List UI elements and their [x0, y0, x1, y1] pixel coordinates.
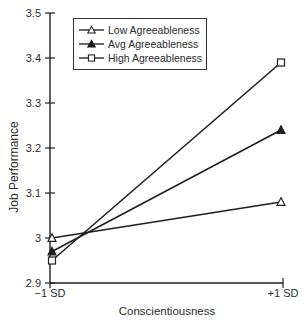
open-triangle-data-marker	[277, 198, 285, 206]
legend-label-low: Low Agreeableness	[108, 25, 200, 36]
legend-item-avg-agreeableness: Avg Agreeableness	[79, 39, 204, 50]
legend-item-high-agreeableness: High Agreeableness	[79, 53, 204, 64]
y-tick-label: 3.2	[26, 142, 41, 154]
x-tick-label: −1 SD	[35, 287, 66, 299]
open-square-marker-icon	[79, 53, 104, 63]
open-square-data-marker	[278, 59, 285, 66]
legend: Low Agreeableness Avg Agreeableness High…	[73, 18, 207, 70]
y-tick-label: 3.5	[26, 7, 41, 19]
legend-label-high: High Agreeableness	[108, 53, 202, 64]
filled-triangle-marker-icon	[79, 39, 104, 49]
y-tick-label: 3.3	[26, 97, 41, 109]
x-axis-title: Conscientiousness	[119, 305, 216, 317]
legend-label-avg: Avg Agreeableness	[108, 39, 198, 50]
y-tick-label: 3.1	[26, 187, 41, 199]
open-square-data-marker	[49, 257, 56, 264]
series-line-avg-agreeableness	[52, 130, 281, 252]
legend-item-low-agreeableness: Low Agreeableness	[79, 25, 204, 36]
x-tick-label: +1 SD	[268, 287, 299, 299]
open-triangle-marker-icon	[79, 25, 104, 35]
y-tick-label: 3	[35, 232, 41, 244]
y-tick-label: 3.4	[26, 52, 41, 64]
interaction-plot-figure: 2.933.13.23.33.43.5−1 SD+1 SD Low Agreea…	[0, 0, 308, 325]
y-axis-title: Job Performance	[7, 121, 21, 212]
filled-triangle-data-marker	[48, 247, 56, 255]
series-line-high-agreeableness	[52, 63, 281, 261]
filled-triangle-data-marker	[277, 126, 285, 134]
